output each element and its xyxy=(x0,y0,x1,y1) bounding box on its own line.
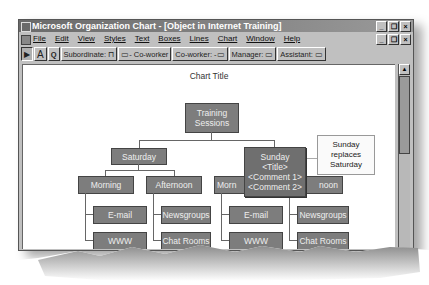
text-a-icon: A xyxy=(37,49,44,60)
box-sunday-selected[interactable]: Sunday <Title> <Comment 1> <Comment 2> xyxy=(244,147,306,197)
menu-text[interactable]: Text xyxy=(135,33,150,45)
box-sun-chat-rooms[interactable]: Chat Rooms xyxy=(297,232,349,249)
text-tool-button[interactable]: A xyxy=(34,47,47,61)
manager-button[interactable]: Manager: ▭ xyxy=(229,47,277,61)
menu-lines[interactable]: Lines xyxy=(190,33,209,45)
coworker-right-button[interactable]: Co-worker: -▭ xyxy=(172,47,227,61)
document-icon[interactable] xyxy=(21,35,31,45)
menu-edit[interactable]: Edit xyxy=(55,33,69,45)
menu-view[interactable]: View xyxy=(78,33,95,45)
doc-minimize-button[interactable]: _ xyxy=(376,34,387,45)
select-tool-button[interactable]: ▶ xyxy=(21,47,33,61)
box-sun-email[interactable]: E-mail xyxy=(229,206,283,224)
app-icon xyxy=(21,22,31,32)
title-bar[interactable]: Microsoft Organization Chart - [Object i… xyxy=(19,20,413,32)
menu-boxes[interactable]: Boxes xyxy=(158,33,180,45)
menu-chart[interactable]: Chart xyxy=(218,33,238,45)
menu-styles[interactable]: Styles xyxy=(104,33,126,45)
window-title: Microsoft Organization Chart - [Object i… xyxy=(32,21,282,31)
subordinate-button[interactable]: Subordinate: ⊓ xyxy=(61,47,118,61)
close-button[interactable]: × xyxy=(400,21,411,32)
menu-window[interactable]: Window xyxy=(246,33,274,45)
vertical-scrollbar[interactable]: ▲ xyxy=(398,64,410,248)
doc-restore-button[interactable]: ❐ xyxy=(388,34,399,45)
callout-note: Sunday replaces Saturday xyxy=(317,135,375,175)
assistant-button[interactable]: Assistant: ▭ xyxy=(277,47,326,61)
box-saturday-morning[interactable]: Morning xyxy=(78,176,134,194)
scroll-thumb[interactable] xyxy=(399,76,410,154)
toolbar: ▶ A Q Subordinate: ⊓ ▭- Co-worker Co-wor… xyxy=(21,47,326,61)
scroll-up-arrow-icon[interactable]: ▲ xyxy=(399,64,410,75)
box-sat-newsgroups[interactable]: Newsgroups xyxy=(161,206,211,224)
magnifier-icon: Q xyxy=(51,50,57,59)
restore-button[interactable]: ❐ xyxy=(388,21,399,32)
coworker-left-button[interactable]: ▭- Co-worker xyxy=(118,47,171,61)
menu-file[interactable]: File xyxy=(33,33,46,45)
box-saturday-afternoon[interactable]: Afternoon xyxy=(146,176,202,194)
arrow-pointer-icon: ▶ xyxy=(24,50,30,59)
box-sunday-afternoon[interactable]: noon xyxy=(301,176,343,194)
box-sat-www[interactable]: WWW xyxy=(93,232,147,249)
box-saturday[interactable]: Saturday xyxy=(111,148,167,165)
box-sun-www[interactable]: WWW xyxy=(229,232,283,249)
doc-close-button[interactable]: × xyxy=(400,34,411,45)
box-training-sessions[interactable]: Training Sessions xyxy=(185,103,239,133)
box-sat-chat-rooms[interactable]: Chat Rooms xyxy=(161,232,211,249)
menu-help[interactable]: Help xyxy=(284,33,300,45)
zoom-tool-button[interactable]: Q xyxy=(48,47,60,61)
box-sat-email[interactable]: E-mail xyxy=(93,206,147,224)
menu-bar: File Edit View Styles Text Boxes Lines C… xyxy=(19,33,413,45)
chart-title[interactable]: Chart Title xyxy=(23,71,395,81)
minimize-button[interactable]: _ xyxy=(376,21,387,32)
box-sun-newsgroups[interactable]: Newsgroups xyxy=(297,206,349,224)
